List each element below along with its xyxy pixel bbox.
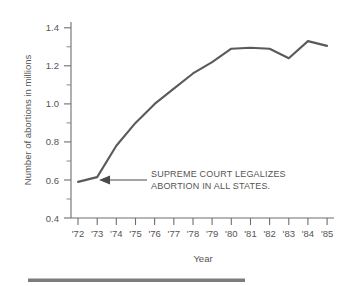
x-tick-label: '80 xyxy=(225,228,237,239)
x-tick-label: '74 xyxy=(110,228,122,239)
y-tick-label: 0.8 xyxy=(46,136,59,147)
y-tick-label: 1.0 xyxy=(46,98,59,109)
x-tick-label: '77 xyxy=(168,228,180,239)
x-tick-label: '81 xyxy=(244,228,256,239)
x-tick-label: '73 xyxy=(91,228,103,239)
x-tick-label: '78 xyxy=(187,228,199,239)
y-tick-label: 1.4 xyxy=(46,22,59,33)
abortions-line-chart: 1.4 1.2 1.0 0.8 0.6 0.4 '72 xyxy=(0,0,345,286)
y-axis-minor-ticks xyxy=(67,47,72,199)
annotation-line-1: SUPREME COURT LEGALIZES xyxy=(151,169,286,179)
chart-figure: 1.4 1.2 1.0 0.8 0.6 0.4 '72 xyxy=(0,0,345,286)
x-tick-label: '79 xyxy=(206,228,218,239)
x-tick-label: '82 xyxy=(263,228,275,239)
x-axis-tick-labels: '72 '73 '74 '75 '76 '77 '78 '79 '80 '81 … xyxy=(72,228,333,239)
x-tick-label: '83 xyxy=(283,228,295,239)
data-series-line xyxy=(78,41,327,182)
annotation-arrow xyxy=(101,176,148,183)
x-tick-label: '72 xyxy=(72,228,84,239)
x-tick-label: '85 xyxy=(321,228,333,239)
annotation-line-2: ABORTION IN ALL STATES. xyxy=(151,181,270,191)
y-tick-label: 0.4 xyxy=(46,213,59,224)
y-axis-tick-labels: 1.4 1.2 1.0 0.8 0.6 0.4 xyxy=(46,22,59,223)
x-tick-label: '84 xyxy=(302,228,314,239)
y-tick-label: 0.6 xyxy=(46,175,59,186)
footer-rule-bar xyxy=(28,279,245,283)
x-axis-title: Year xyxy=(193,253,212,264)
x-tick-label: '75 xyxy=(129,228,141,239)
x-axis-ticks xyxy=(78,218,327,225)
supreme-court-annotation: SUPREME COURT LEGALIZES ABORTION IN ALL … xyxy=(151,169,286,191)
x-tick-label: '76 xyxy=(148,228,160,239)
y-axis-title: Number of abortions in millions xyxy=(22,55,33,186)
y-tick-label: 1.2 xyxy=(46,60,59,71)
